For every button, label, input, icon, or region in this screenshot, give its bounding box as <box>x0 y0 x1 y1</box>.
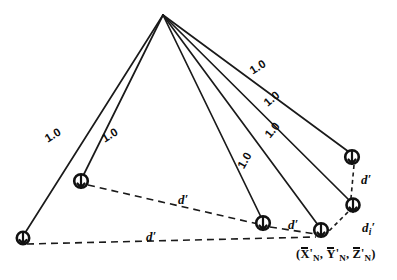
solid-edge-apex-to-left-upper <box>83 15 163 176</box>
solid-edge-apex-to-right-far <box>163 15 349 152</box>
distance-symbol: d <box>146 229 153 244</box>
distance-label-lower-dashed: d′ <box>146 230 156 243</box>
solid-edge-apex-to-center-bottom <box>163 15 261 217</box>
dashed-edge-bottom-left-to-coord <box>27 237 316 244</box>
distance-symbol: d <box>362 220 369 235</box>
coordinate-point-label: (X'N, Y'N, Z'N) <box>296 248 376 263</box>
distance-symbol: d <box>178 192 185 207</box>
coord-y-overline: Y <box>326 248 335 261</box>
distance-label-upper-dashed: d′ <box>178 193 188 206</box>
coord-y-symbol: Y <box>326 247 335 261</box>
coord-z-symbol: Z <box>353 247 362 261</box>
node-marker-center-bottom <box>256 216 270 230</box>
node-marker-bottom-left <box>17 232 29 244</box>
prime-mark: ′ <box>185 192 189 206</box>
diagram-svg <box>0 0 397 280</box>
node-marker-coord-point <box>314 223 328 237</box>
distance-label-right-upper: d′ <box>361 173 371 186</box>
prime-mark: ′ <box>153 229 157 243</box>
distance-label-right-lower: di′ <box>362 221 375 237</box>
node-marker-right-mid <box>347 199 360 212</box>
figure-canvas: 1.0 1.0 1.0 1.0 1.0 1.0 d′ d′ d′ d′ di′ … <box>0 0 397 280</box>
dashed-edge-right-far-to-right-mid <box>351 165 354 198</box>
coord-y-subscript: N <box>339 253 346 263</box>
solid-edge-apex-to-bottom-left <box>25 15 163 233</box>
distance-symbol: d <box>288 217 295 232</box>
dashed-edge-left-upper-to-center-bottom <box>88 185 258 224</box>
prime-mark: ′ <box>295 217 299 231</box>
coord-z-overline: Z <box>353 248 362 261</box>
dashed-edge-right-mid-to-coord <box>326 212 348 234</box>
coord-x-symbol: X <box>300 247 309 261</box>
node-marker-right-far <box>345 150 359 164</box>
distance-symbol: d <box>361 172 368 187</box>
solid-edge-apex-to-right-mid <box>163 15 349 200</box>
distance-label-mid-dashed: d′ <box>288 218 298 231</box>
prime-mark: ′ <box>372 220 376 234</box>
coord-comma-2: , <box>346 247 349 261</box>
coord-close-paren: ) <box>371 247 375 261</box>
coord-x-overline: X <box>300 248 309 261</box>
prime-mark: ′ <box>368 172 372 186</box>
coord-x-subscript: N <box>313 253 320 263</box>
node-marker-left-upper <box>74 174 88 188</box>
coord-comma-1: , <box>320 247 323 261</box>
